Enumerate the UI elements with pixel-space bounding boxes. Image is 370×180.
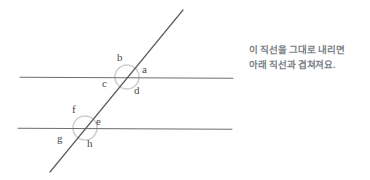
angle-label-e: e (96, 116, 101, 127)
angle-label-h: h (87, 138, 93, 149)
angle-label-b: b (117, 52, 123, 63)
diagram-canvas: a b c d e f g h 이 직선을 그대로 내리면 아래 직선과 겹쳐져… (0, 0, 370, 180)
angle-label-d: d (134, 85, 140, 96)
lower-parallel-line (18, 128, 232, 129)
explanation-note: 이 직선을 그대로 내리면 아래 직선과 겹쳐져요. (249, 43, 361, 72)
geometry-figure (0, 0, 370, 180)
angle-label-a: a (142, 64, 147, 75)
explanation-note-line-1: 이 직선을 그대로 내리면 (249, 43, 361, 58)
angle-label-g: g (57, 133, 63, 144)
explanation-note-line-2: 아래 직선과 겹쳐져요. (249, 58, 361, 73)
transversal-line (50, 10, 183, 172)
angle-label-c: c (102, 78, 107, 89)
angle-label-f: f (72, 104, 76, 115)
